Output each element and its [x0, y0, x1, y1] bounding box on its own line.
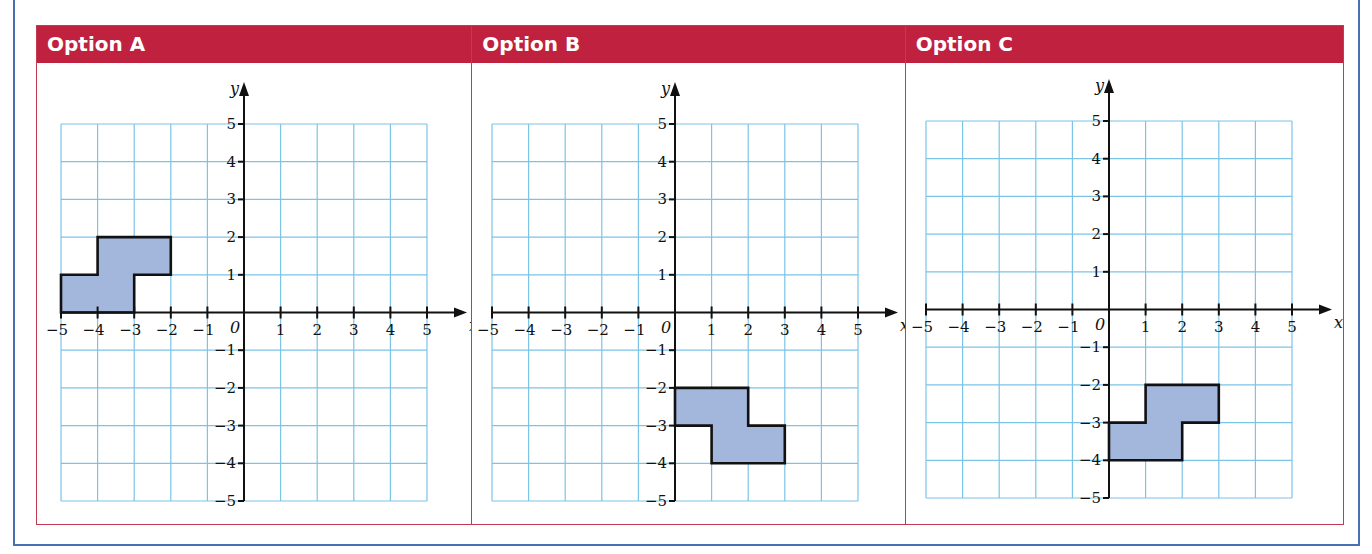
option-c-header: Option C: [906, 26, 1343, 63]
y-arrow-icon: [239, 82, 249, 96]
l-shape-polygon: [675, 388, 785, 463]
option-a-header: Option A: [37, 26, 471, 63]
y-tick-label: −5: [1079, 489, 1101, 507]
option-b-panel[interactable]: Option B −5−4−3−2−11234554321−1−2−3−4−50…: [471, 26, 904, 524]
y-tick-label: 1: [658, 266, 668, 284]
y-tick-label: 3: [658, 190, 668, 208]
x-tick-label: 3: [349, 321, 359, 339]
origin-label: 0: [661, 318, 671, 337]
x-tick-label: 1: [707, 321, 717, 339]
x-tick-label: 2: [312, 321, 322, 339]
x-arrow-icon: [1319, 305, 1332, 315]
y-tick-label: 2: [1091, 225, 1101, 243]
y-tick-label: 1: [226, 266, 236, 284]
x-tick-label: −1: [624, 321, 646, 339]
x-tick-label: 5: [854, 321, 864, 339]
y-tick-label: −3: [214, 417, 236, 435]
l-shape-polygon: [1109, 385, 1219, 460]
option-b-header: Option B: [472, 26, 904, 63]
y-tick-label: −4: [214, 454, 236, 472]
y-tick-label: −1: [645, 341, 667, 359]
x-tick-label: −1: [1057, 318, 1079, 336]
y-tick-label: −4: [1079, 451, 1101, 469]
y-axis-label: y: [229, 79, 240, 98]
l-shape-polygon: [61, 237, 171, 312]
x-tick-label: −4: [947, 318, 969, 336]
y-tick-label: 4: [658, 153, 668, 171]
x-tick-label: 1: [1140, 318, 1150, 336]
y-tick-label: −3: [645, 417, 667, 435]
y-tick-label: −2: [645, 379, 667, 397]
x-tick-label: −3: [550, 321, 572, 339]
x-tick-label: −5: [911, 318, 933, 336]
option-c-coordinate-grid: −5−4−3−2−11234554321−1−2−3−4−50xy: [906, 63, 1345, 523]
y-tick-label: −5: [645, 492, 667, 510]
y-arrow-icon: [670, 82, 680, 96]
y-tick-label: 4: [226, 153, 236, 171]
y-tick-label: −1: [1079, 338, 1101, 356]
axes: −5−4−3−2−11234554321−1−2−3−4−50xy: [477, 79, 906, 510]
option-a-panel[interactable]: Option A −5−4−3−2−11234554321−1−2−3−4−50…: [37, 26, 471, 524]
y-tick-label: −5: [214, 492, 236, 510]
y-tick-label: 5: [658, 115, 668, 133]
x-tick-label: 5: [1287, 318, 1297, 336]
option-b-coordinate-grid: −5−4−3−2−11234554321−1−2−3−4−50xy: [472, 63, 906, 523]
y-tick-label: −4: [645, 454, 667, 472]
y-tick-label: 4: [1091, 150, 1101, 168]
y-tick-label: 2: [658, 228, 668, 246]
y-tick-label: 5: [226, 115, 236, 133]
x-tick-label: 2: [744, 321, 754, 339]
x-tick-label: −3: [984, 318, 1006, 336]
y-axis-label: y: [1094, 76, 1105, 95]
y-tick-label: 3: [226, 190, 236, 208]
x-tick-label: 4: [817, 321, 827, 339]
x-tick-label: 1: [276, 321, 286, 339]
y-tick-label: −1: [214, 341, 236, 359]
x-tick-label: 5: [422, 321, 432, 339]
option-a-coordinate-grid: −5−4−3−2−11234554321−1−2−3−4−50xy: [37, 63, 472, 523]
y-axis-label: y: [660, 79, 671, 98]
option-c-panel[interactable]: Option C −5−4−3−2−11234554321−1−2−3−4−50…: [905, 26, 1343, 524]
x-tick-label: −4: [514, 321, 536, 339]
x-tick-label: −2: [1020, 318, 1042, 336]
y-arrow-icon: [1104, 79, 1114, 93]
y-tick-label: 3: [1091, 187, 1101, 205]
y-tick-label: 2: [226, 228, 236, 246]
y-tick-label: 1: [1091, 263, 1101, 281]
origin-label: 0: [230, 318, 240, 337]
x-tick-label: −2: [156, 321, 178, 339]
x-tick-label: 3: [780, 321, 790, 339]
x-tick-label: 3: [1214, 318, 1224, 336]
x-tick-label: −5: [46, 321, 68, 339]
y-tick-label: 5: [1091, 112, 1101, 130]
x-tick-label: −3: [119, 321, 141, 339]
x-tick-label: 4: [1250, 318, 1260, 336]
x-tick-label: −4: [83, 321, 105, 339]
y-tick-label: −3: [1079, 414, 1101, 432]
y-tick-label: −2: [214, 379, 236, 397]
x-tick-label: −2: [587, 321, 609, 339]
x-tick-label: −1: [192, 321, 214, 339]
x-axis-label: x: [1334, 313, 1343, 332]
origin-label: 0: [1095, 315, 1105, 334]
options-table: Option A −5−4−3−2−11234554321−1−2−3−4−50…: [36, 25, 1344, 525]
y-tick-label: −2: [1079, 376, 1101, 394]
x-arrow-icon: [885, 308, 898, 318]
x-tick-label: 4: [386, 321, 396, 339]
x-tick-label: 2: [1177, 318, 1187, 336]
x-arrow-icon: [454, 308, 467, 318]
x-tick-label: −5: [477, 321, 499, 339]
